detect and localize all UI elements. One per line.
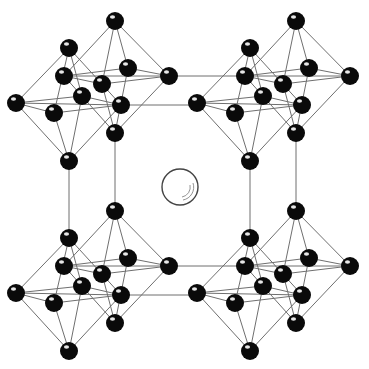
anion-atom	[73, 277, 91, 295]
atom-sphere	[241, 342, 259, 360]
atom-highlight	[123, 252, 128, 256]
bond-line	[245, 258, 309, 266]
anion-atom	[241, 342, 259, 360]
anion-atom	[119, 59, 137, 77]
atom-highlight	[304, 62, 309, 66]
atom-highlight	[11, 287, 16, 291]
atom-sphere	[241, 152, 259, 170]
atom-highlight	[77, 90, 82, 94]
atom-highlight	[245, 345, 250, 349]
atom-sphere	[341, 67, 359, 85]
atom-highlight	[258, 90, 263, 94]
atom-highlight	[97, 78, 102, 82]
anion-atom	[241, 39, 259, 57]
atom-highlight	[304, 252, 309, 256]
anion-atom	[287, 314, 305, 332]
crystal-structure-diagram	[0, 0, 369, 369]
anion-atom	[293, 286, 311, 304]
bond-line	[54, 105, 121, 113]
atom-highlight	[64, 42, 69, 46]
bond-line	[283, 21, 296, 84]
atom-sphere	[45, 104, 63, 122]
atom-highlight	[64, 345, 69, 349]
atom-sphere	[112, 286, 130, 304]
anion-atom	[254, 87, 272, 105]
anion-atom	[93, 75, 111, 93]
anion-atom	[60, 229, 78, 247]
atom-highlight	[240, 70, 245, 74]
anion-atom	[188, 94, 206, 112]
atom-sphere	[7, 284, 25, 302]
anion-atom	[119, 249, 137, 267]
bond-line	[283, 266, 350, 274]
anion-atom	[106, 314, 124, 332]
anion-atom	[287, 12, 305, 30]
bond-line	[250, 286, 263, 351]
bond-line	[283, 211, 296, 274]
atom-highlight	[291, 127, 296, 131]
atom-highlight	[258, 280, 263, 284]
atom-highlight	[49, 297, 54, 301]
atom-sphere	[226, 104, 244, 122]
atom-highlight	[291, 15, 296, 19]
atom-highlight	[230, 107, 235, 111]
atom-sphere	[55, 67, 73, 85]
anion-atom	[60, 342, 78, 360]
bond-line	[64, 68, 128, 76]
atom-sphere	[160, 257, 178, 275]
atom-sphere	[287, 12, 305, 30]
atom-highlight	[110, 15, 115, 19]
bond-line	[16, 293, 121, 295]
atom-sphere	[7, 94, 25, 112]
atom-sphere	[106, 202, 124, 220]
atom-highlight	[77, 280, 82, 284]
atom-highlight	[297, 289, 302, 293]
bond-line	[16, 96, 82, 103]
anion-atom	[106, 202, 124, 220]
atom-highlight	[123, 62, 128, 66]
atom-highlight	[49, 107, 54, 111]
atom-sphere	[160, 67, 178, 85]
bond-line	[283, 76, 350, 84]
anion-atom	[287, 124, 305, 142]
anion-atom	[73, 87, 91, 105]
atom-sphere	[241, 229, 259, 247]
atom-highlight	[278, 78, 283, 82]
atom-highlight	[345, 260, 350, 264]
atom-highlight	[245, 155, 250, 159]
cluster-top-left	[7, 12, 178, 170]
atom-highlight	[278, 268, 283, 272]
central-cation	[162, 169, 198, 205]
atom-highlight	[110, 127, 115, 131]
anion-atom	[241, 152, 259, 170]
anion-atom	[45, 294, 63, 312]
atom-highlight	[64, 155, 69, 159]
anion-atom	[241, 229, 259, 247]
atom-sphere	[73, 87, 91, 105]
atom-sphere	[254, 277, 272, 295]
atom-sphere	[274, 265, 292, 283]
bond-line	[102, 21, 115, 84]
cluster-top-right	[188, 12, 359, 170]
atom-sphere	[254, 87, 272, 105]
atom-sphere	[287, 124, 305, 142]
bond-line	[250, 96, 263, 161]
bond-line	[245, 68, 309, 76]
anion-atom	[112, 286, 130, 304]
atom-sphere	[93, 265, 111, 283]
atom-highlight	[230, 297, 235, 301]
atom-highlight	[11, 97, 16, 101]
anion-atom	[60, 39, 78, 57]
bond-line	[16, 103, 121, 105]
atom-sphere	[106, 12, 124, 30]
anion-atom	[226, 104, 244, 122]
atom-sphere	[293, 96, 311, 114]
atom-sphere	[119, 249, 137, 267]
atom-highlight	[291, 205, 296, 209]
atom-sphere	[300, 249, 318, 267]
bond-line	[16, 286, 82, 293]
bond-line	[197, 286, 263, 293]
atom-sphere	[287, 202, 305, 220]
anion-atom	[254, 277, 272, 295]
anion-atom	[7, 284, 25, 302]
